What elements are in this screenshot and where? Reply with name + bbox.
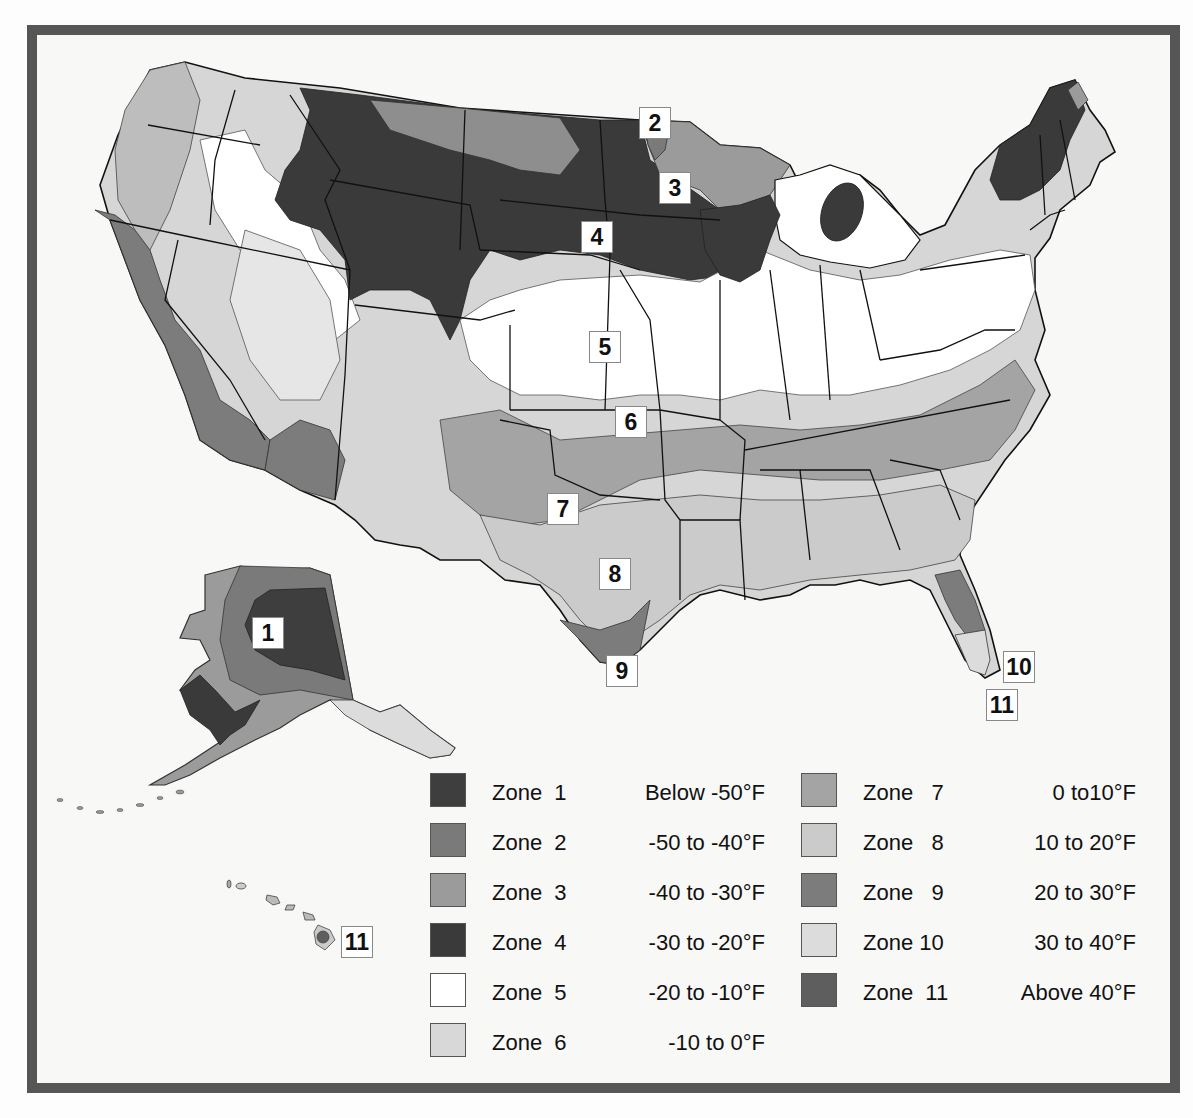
zone-10-florida <box>955 630 990 675</box>
legend-zone-range: -30 to -20°F <box>625 930 765 956</box>
legend-zone-name: Zone 5 <box>492 980 567 1006</box>
legend-item-zone-9: Zone 9 20 to 30°F <box>801 872 837 908</box>
legend-zone-range: Below -50°F <box>625 780 765 806</box>
legend-zone-range: -20 to -10°F <box>625 980 765 1006</box>
legend-zone-name: Zone 4 <box>492 930 567 956</box>
legend-swatch <box>430 973 466 1007</box>
hawaii-islands <box>227 880 335 950</box>
legend-zone-name: Zone 2 <box>492 830 567 856</box>
aleutian-islands <box>57 790 184 814</box>
legend-item-zone-5: Zone 5 -20 to -10°F <box>430 972 466 1008</box>
legend-zone-range: -10 to 0°F <box>625 1030 765 1056</box>
legend-zone-name: Zone 9 <box>863 880 944 906</box>
legend-item-zone-6: Zone 6 -10 to 0°F <box>430 1022 466 1058</box>
legend-zone-range: 0 to10°F <box>996 780 1136 806</box>
legend-zone-range: 10 to 20°F <box>996 830 1136 856</box>
alaska-zone-8-panhandle <box>330 700 455 758</box>
legend-swatch <box>430 823 466 857</box>
legend-item-zone-1: Zone 1 Below -50°F <box>430 772 466 808</box>
legend-swatch <box>801 873 837 907</box>
legend-item-zone-10: Zone 10 30 to 40°F <box>801 922 837 958</box>
legend-zone-name: Zone 10 <box>863 930 944 956</box>
legend-item-zone-4: Zone 4 -30 to -20°F <box>430 922 466 958</box>
legend-swatch <box>430 923 466 957</box>
legend-item-zone-11: Zone 11 Above 40°F <box>801 972 837 1008</box>
legend-zone-range: -40 to -30°F <box>625 880 765 906</box>
zone-label-7: 7 <box>547 493 579 525</box>
legend-swatch <box>430 773 466 807</box>
legend-swatch <box>801 773 837 807</box>
zone-label-11-florida: 11 <box>986 689 1018 721</box>
legend-zone-name: Zone 1 <box>492 780 567 806</box>
legend-zone-name: Zone 6 <box>492 1030 567 1056</box>
legend-zone-name: Zone 7 <box>863 780 944 806</box>
zone-label-11-hawaii: 11 <box>341 926 373 958</box>
legend-item-zone-8: Zone 8 10 to 20°F <box>801 822 837 858</box>
legend-swatch <box>801 973 837 1007</box>
legend-zone-range: Above 40°F <box>996 980 1136 1006</box>
legend-zone-name: Zone 11 <box>863 980 948 1006</box>
legend-zone-name: Zone 8 <box>863 830 944 856</box>
zone-label-4: 4 <box>581 221 613 253</box>
zone-label-1: 1 <box>252 617 284 649</box>
zone-label-10: 10 <box>1003 651 1035 683</box>
zone-label-3: 3 <box>659 172 691 204</box>
legend-swatch <box>430 1023 466 1057</box>
zone-label-9: 9 <box>606 655 638 687</box>
legend-item-zone-3: Zone 3 -40 to -30°F <box>430 872 466 908</box>
zone-label-2: 2 <box>639 107 671 139</box>
legend-item-zone-7: Zone 7 0 to10°F <box>801 772 837 808</box>
legend-swatch <box>801 923 837 957</box>
zone-label-8: 8 <box>599 558 631 590</box>
zone-label-5: 5 <box>589 331 621 363</box>
legend-zone-range: 20 to 30°F <box>996 880 1136 906</box>
legend-swatch <box>430 873 466 907</box>
legend-zone-name: Zone 3 <box>492 880 567 906</box>
legend-zone-range: -50 to -40°F <box>625 830 765 856</box>
zone-label-6: 6 <box>615 406 647 438</box>
legend-swatch <box>801 823 837 857</box>
legend-item-zone-2: Zone 2 -50 to -40°F <box>430 822 466 858</box>
legend-zone-range: 30 to 40°F <box>996 930 1136 956</box>
